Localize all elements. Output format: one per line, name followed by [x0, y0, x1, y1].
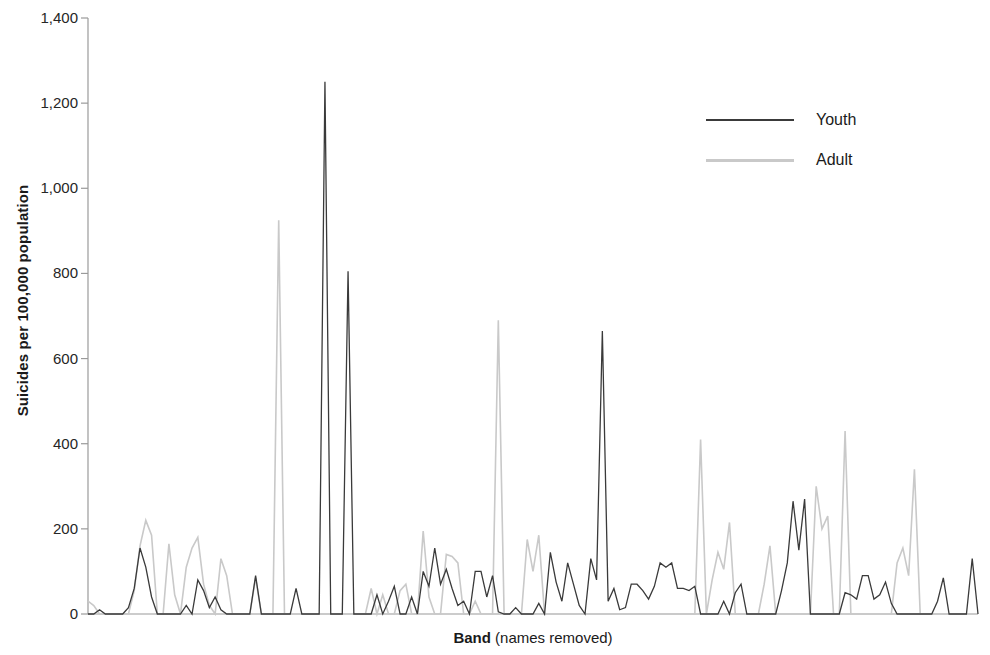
y-tick-label: 800: [18, 265, 78, 280]
y-tick-label: 400: [18, 436, 78, 451]
plot-area: [0, 0, 990, 655]
x-axis-title: Band (names removed): [88, 629, 978, 646]
y-axis-tick-labels: 02004006008001,0001,2001,400: [10, 0, 78, 655]
legend-swatch-youth: [706, 119, 794, 121]
series-line-adult: [88, 220, 966, 614]
legend-swatch-adult: [706, 159, 794, 162]
y-tick-label: 1,000: [18, 180, 78, 195]
y-tick-label: 200: [18, 521, 78, 536]
legend-item-youth: Youth: [706, 100, 936, 140]
legend-label-youth: Youth: [816, 111, 856, 129]
y-tick-label: 0: [18, 606, 78, 621]
y-tick-label: 1,200: [18, 95, 78, 110]
chart-figure: Suicides per 100,000 population 02004006…: [0, 0, 990, 655]
x-axis-title-rest: (names removed): [491, 629, 613, 646]
y-tick-label: 1,400: [18, 10, 78, 25]
chart-legend: Youth Adult: [706, 100, 936, 180]
legend-item-adult: Adult: [706, 140, 936, 180]
x-axis-title-bold: Band: [453, 629, 491, 646]
y-tick-label: 600: [18, 351, 78, 366]
legend-label-adult: Adult: [816, 151, 852, 169]
